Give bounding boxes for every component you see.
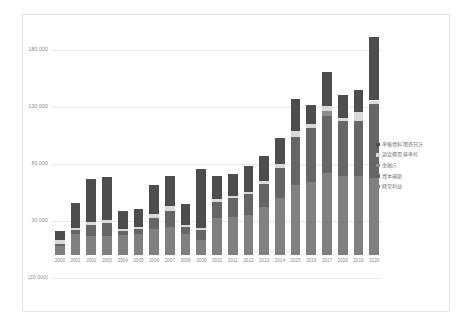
bar-segment[interactable] — [102, 177, 112, 220]
bar-segment[interactable] — [322, 72, 332, 106]
bar-segment[interactable] — [228, 217, 238, 256]
bar-column[interactable] — [244, 22, 254, 278]
bar-column[interactable] — [165, 22, 175, 278]
bar-segment[interactable] — [291, 185, 301, 256]
bar-segment[interactable] — [244, 192, 254, 194]
bar-segment[interactable] — [134, 229, 144, 234]
bar-segment[interactable] — [275, 198, 285, 255]
bar-column[interactable] — [354, 22, 364, 278]
bar-segment[interactable] — [196, 228, 206, 230]
bar-segment[interactable] — [55, 240, 65, 243]
bar-segment[interactable] — [259, 184, 269, 208]
bar-column[interactable] — [55, 22, 65, 278]
bar-segment[interactable] — [338, 95, 348, 118]
bar-segment[interactable] — [165, 206, 175, 211]
legend-item[interactable]: 資本補助 — [376, 171, 448, 182]
bar-segment[interactable] — [134, 227, 144, 229]
bar-column[interactable] — [212, 22, 222, 278]
bar-segment[interactable] — [322, 111, 332, 117]
bar-segment[interactable] — [338, 118, 348, 121]
bar-column[interactable] — [259, 22, 269, 278]
bar-segment[interactable] — [338, 121, 348, 176]
bar-segment[interactable] — [118, 211, 128, 229]
bar-column[interactable] — [338, 22, 348, 278]
legend-item[interactable]: 調査費用基準枠 — [376, 150, 448, 161]
bar-column[interactable] — [322, 22, 332, 278]
bar-segment[interactable] — [306, 182, 316, 255]
bar-segment[interactable] — [55, 246, 65, 255]
legend-item[interactable]: 経常利益 — [376, 181, 448, 192]
bar-column[interactable] — [306, 22, 316, 278]
bar-segment[interactable] — [181, 225, 191, 227]
bar-segment[interactable] — [71, 230, 81, 233]
bar-segment[interactable] — [134, 234, 144, 256]
bar-segment[interactable] — [354, 176, 364, 256]
bar-segment[interactable] — [306, 105, 316, 124]
bar-column[interactable] — [181, 22, 191, 278]
bar-column[interactable] — [228, 22, 238, 278]
bar-segment[interactable] — [196, 240, 206, 255]
bar-segment[interactable] — [86, 236, 96, 255]
bar-segment[interactable] — [291, 99, 301, 131]
bar-segment[interactable] — [369, 101, 379, 104]
bar-segment[interactable] — [322, 173, 332, 255]
bar-segment[interactable] — [244, 194, 254, 216]
bar-segment[interactable] — [322, 116, 332, 173]
bar-column[interactable] — [134, 22, 144, 278]
bar-segment[interactable] — [149, 218, 159, 229]
bar-segment[interactable] — [212, 199, 222, 201]
bar-column[interactable] — [71, 22, 81, 278]
bar-segment[interactable] — [86, 225, 96, 236]
legend-item[interactable]: 金融庁 — [376, 160, 448, 171]
bar-segment[interactable] — [212, 218, 222, 256]
bar-segment[interactable] — [196, 230, 206, 240]
bar-segment[interactable] — [86, 179, 96, 222]
bar-segment[interactable] — [86, 222, 96, 224]
bar-column[interactable] — [291, 22, 301, 278]
bar-segment[interactable] — [354, 112, 364, 121]
bar-segment[interactable] — [181, 234, 191, 256]
bar-segment[interactable] — [228, 198, 238, 216]
bar-segment[interactable] — [134, 209, 144, 227]
bar-segment[interactable] — [291, 131, 301, 137]
bar-segment[interactable] — [165, 211, 175, 227]
bar-column[interactable] — [196, 22, 206, 278]
bar-segment[interactable] — [71, 234, 81, 256]
bar-segment[interactable] — [71, 228, 81, 230]
bar-segment[interactable] — [244, 166, 254, 191]
bar-segment[interactable] — [212, 202, 222, 218]
bar-segment[interactable] — [102, 223, 112, 236]
bar-segment[interactable] — [181, 227, 191, 234]
bar-segment[interactable] — [306, 128, 316, 183]
bar-segment[interactable] — [165, 176, 175, 207]
bar-segment[interactable] — [165, 227, 175, 255]
bar-segment[interactable] — [259, 207, 269, 255]
bar-segment[interactable] — [354, 90, 364, 112]
bar-segment[interactable] — [118, 229, 128, 231]
bar-segment[interactable] — [369, 37, 379, 101]
bar-segment[interactable] — [338, 176, 348, 256]
bar-segment[interactable] — [322, 106, 332, 111]
bar-segment[interactable] — [275, 164, 285, 167]
bar-segment[interactable] — [102, 236, 112, 255]
bar-segment[interactable] — [55, 231, 65, 240]
bar-segment[interactable] — [228, 174, 238, 196]
bar-column[interactable] — [102, 22, 112, 278]
bar-segment[interactable] — [55, 244, 65, 246]
bar-segment[interactable] — [196, 169, 206, 228]
bar-column[interactable] — [149, 22, 159, 278]
bar-segment[interactable] — [228, 196, 238, 198]
bar-segment[interactable] — [275, 138, 285, 164]
bar-column[interactable] — [275, 22, 285, 278]
bar-segment[interactable] — [244, 215, 254, 255]
bar-segment[interactable] — [149, 185, 159, 215]
bar-segment[interactable] — [212, 176, 222, 200]
bar-column[interactable] — [118, 22, 128, 278]
bar-segment[interactable] — [149, 214, 159, 217]
bar-segment[interactable] — [181, 204, 191, 224]
bar-segment[interactable] — [259, 156, 269, 181]
bar-segment[interactable] — [291, 137, 301, 185]
bar-segment[interactable] — [259, 181, 269, 183]
bar-segment[interactable] — [275, 168, 285, 199]
bar-segment[interactable] — [118, 235, 128, 255]
